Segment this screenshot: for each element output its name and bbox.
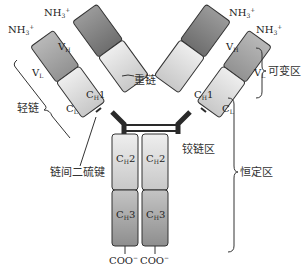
- c-terminus-left: COO−: [109, 254, 138, 266]
- antibody-diagram: VH VL CH1 CL VH VL CH1 CL CH2 CH2 CH3 CH…: [0, 0, 302, 266]
- right-vh-label: VH: [225, 41, 238, 53]
- variable-region-label: 可变区: [268, 64, 301, 78]
- right-ch1-label: CH1: [194, 89, 213, 101]
- left-fab-arm: [31, 4, 149, 118]
- n-terminus-left-light: NH3+: [8, 23, 34, 36]
- heavy-chain-label: 重链: [134, 73, 156, 87]
- constant-region-brace: [228, 98, 238, 252]
- disulfide-bond-label: 链间二硫键: [50, 165, 105, 179]
- right-cl-label: CL: [222, 103, 234, 115]
- hinge-region-label: 铰链区: [182, 142, 215, 156]
- left-vh-label: VH: [57, 41, 70, 53]
- disulfide-leader: [80, 117, 96, 166]
- light-chain-label: 轻链: [17, 101, 39, 115]
- right-vl-label: VL: [253, 67, 265, 79]
- n-terminus-left-heavy: NH3+: [44, 6, 70, 19]
- n-terminus-right-light: NH3+: [256, 23, 282, 36]
- right-fab-arm: [154, 4, 271, 118]
- left-vl-label: VL: [31, 67, 43, 79]
- constant-region-label: 恒定区: [240, 165, 273, 179]
- n-terminus-right-heavy: NH3+: [229, 6, 255, 19]
- fc-region: [112, 134, 168, 254]
- hinge: [96, 108, 206, 134]
- c-terminus-right: COO−: [140, 254, 169, 266]
